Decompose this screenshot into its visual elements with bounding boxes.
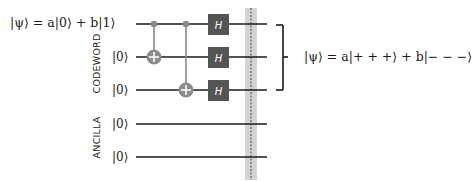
qubit-4-label: |0⟩ bbox=[112, 151, 128, 163]
output-state-label: |ψ⟩ = a|+ + +⟩ + b|− − −⟩ bbox=[304, 51, 472, 64]
hadamard-gate-q0: H bbox=[208, 14, 229, 35]
cnot-2-control-dot bbox=[183, 21, 189, 27]
ancilla-register-label: ANCILLA bbox=[91, 108, 102, 168]
hadamard-gate-q1: H bbox=[208, 47, 229, 68]
codeword-bracket bbox=[276, 25, 288, 90]
codeword-register-label: CODEWORD bbox=[91, 34, 102, 94]
qubit-2-label: |0⟩ bbox=[112, 84, 128, 96]
qubit-1-label: |0⟩ bbox=[112, 51, 128, 63]
svg-text:H: H bbox=[215, 20, 223, 31]
cnot-2-target-icon bbox=[179, 83, 194, 98]
cnot-1-control-dot bbox=[151, 21, 157, 27]
svg-text:H: H bbox=[215, 86, 223, 97]
cnot-1-target-icon bbox=[147, 50, 162, 65]
input-state-label: |ψ⟩ = a|0⟩ + b|1⟩ bbox=[10, 17, 115, 30]
qubit-3-label: |0⟩ bbox=[112, 118, 128, 130]
hadamard-gate-q2: H bbox=[208, 80, 229, 101]
svg-text:H: H bbox=[215, 53, 223, 64]
